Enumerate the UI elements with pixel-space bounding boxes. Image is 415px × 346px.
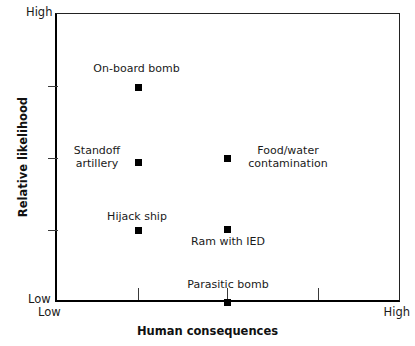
data-marker-on-board-bomb[interactable]	[135, 84, 142, 91]
y-axis-tick-1	[48, 158, 58, 159]
x-axis-tick-0	[138, 288, 139, 300]
x-axis-title: Human consequences	[0, 324, 415, 338]
y-axis-high-label: High	[26, 6, 52, 19]
data-label-standoff-artillery: Standoff artillery	[66, 145, 128, 170]
data-label-ram-with-ied: Ram with IED	[183, 236, 273, 249]
data-label-hijack-ship: Hijack ship	[92, 211, 182, 224]
x-axis-tick-2	[318, 288, 319, 300]
data-marker-parasitic-bomb[interactable]	[224, 299, 231, 306]
x-axis-high-label: High	[384, 306, 410, 319]
chart-canvas: Relative likelihood Human consequences H…	[0, 0, 415, 346]
data-marker-food-water-contamination[interactable]	[224, 155, 231, 162]
data-marker-ram-with-ied[interactable]	[224, 226, 231, 233]
data-label-on-board-bomb: On-board bomb	[84, 63, 189, 76]
data-label-food-water-contamination: Food/water contamination	[238, 145, 338, 170]
data-marker-hijack-ship[interactable]	[135, 227, 142, 234]
data-label-parasitic-bomb: Parasitic bomb	[178, 279, 278, 292]
data-marker-standoff-artillery[interactable]	[135, 159, 142, 166]
y-axis-tick-2	[48, 230, 58, 231]
y-axis-tick-0	[48, 86, 58, 87]
y-axis-title: Relative likelihood	[16, 92, 30, 222]
x-axis-low-label: Low	[38, 306, 61, 319]
